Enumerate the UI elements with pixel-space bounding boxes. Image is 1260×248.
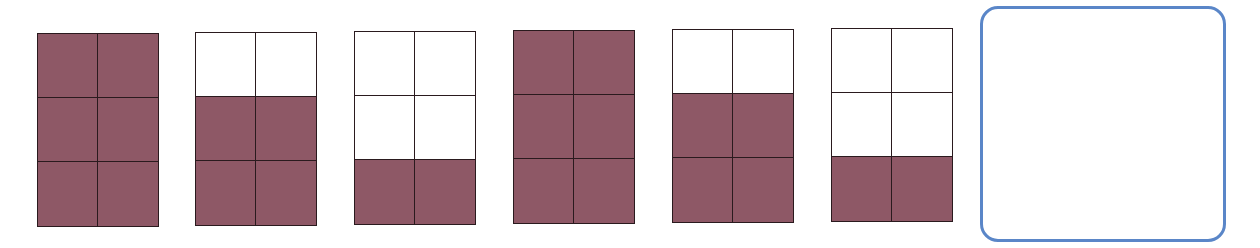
fraction-grid-5 bbox=[672, 29, 794, 223]
empty-cell bbox=[832, 29, 892, 93]
shaded-cell bbox=[355, 160, 415, 224]
shaded-cell bbox=[574, 31, 634, 95]
empty-cell bbox=[892, 93, 952, 157]
shaded-cell bbox=[38, 162, 98, 226]
shaded-cell bbox=[733, 158, 793, 222]
empty-cell bbox=[892, 29, 952, 93]
fraction-grid-6 bbox=[831, 28, 953, 222]
fraction-grid-3 bbox=[354, 31, 476, 225]
fraction-grid-4 bbox=[513, 30, 635, 224]
empty-cell bbox=[733, 30, 793, 94]
empty-cell bbox=[256, 33, 316, 97]
shaded-cell bbox=[98, 34, 158, 98]
empty-cell bbox=[415, 96, 475, 160]
empty-cell bbox=[415, 32, 475, 96]
shaded-cell bbox=[196, 161, 256, 225]
shaded-cell bbox=[832, 157, 892, 221]
shaded-cell bbox=[574, 95, 634, 159]
shaded-cell bbox=[514, 95, 574, 159]
shaded-cell bbox=[892, 157, 952, 221]
shaded-cell bbox=[673, 158, 733, 222]
empty-cell bbox=[832, 93, 892, 157]
shaded-cell bbox=[98, 162, 158, 226]
empty-cell bbox=[196, 33, 256, 97]
shaded-cell bbox=[574, 159, 634, 223]
shaded-cell bbox=[415, 160, 475, 224]
shaded-cell bbox=[733, 94, 793, 158]
shaded-cell bbox=[514, 31, 574, 95]
shaded-cell bbox=[38, 98, 98, 162]
shaded-cell bbox=[38, 34, 98, 98]
shaded-cell bbox=[256, 97, 316, 161]
fraction-grid-2 bbox=[195, 32, 317, 226]
empty-cell bbox=[355, 32, 415, 96]
empty-cell bbox=[673, 30, 733, 94]
shaded-cell bbox=[673, 94, 733, 158]
shaded-cell bbox=[98, 98, 158, 162]
fraction-grid-1 bbox=[37, 33, 159, 227]
empty-cell bbox=[355, 96, 415, 160]
shaded-cell bbox=[196, 97, 256, 161]
answer-box[interactable] bbox=[980, 6, 1226, 242]
shaded-cell bbox=[256, 161, 316, 225]
shaded-cell bbox=[514, 159, 574, 223]
